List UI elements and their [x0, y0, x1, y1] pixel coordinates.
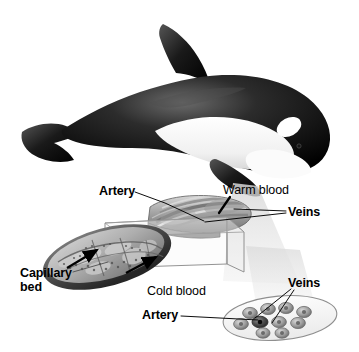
eye-dot [297, 144, 301, 148]
label-warm-blood: Warm blood [223, 184, 289, 198]
label-capillary-bed-line2: bed [20, 280, 42, 294]
figure-container: Artery Warm blood Veins Capillarybed Col… [0, 0, 359, 352]
vessel-bundle-cross-section [221, 291, 338, 345]
label-veins-top: Veins [288, 206, 320, 220]
label-veins-bottom: Veins [288, 277, 320, 291]
diagram-artwork [0, 0, 359, 352]
dorsal-fin [159, 24, 210, 84]
label-artery-top: Artery [99, 185, 135, 199]
orca-illustration [21, 24, 330, 196]
label-capillary-bed-line1: Capillary [20, 266, 72, 280]
label-cold-blood: Cold blood [147, 285, 206, 299]
label-artery-bottom: Artery [142, 309, 178, 323]
label-capillary-bed: Capillarybed [20, 267, 72, 294]
